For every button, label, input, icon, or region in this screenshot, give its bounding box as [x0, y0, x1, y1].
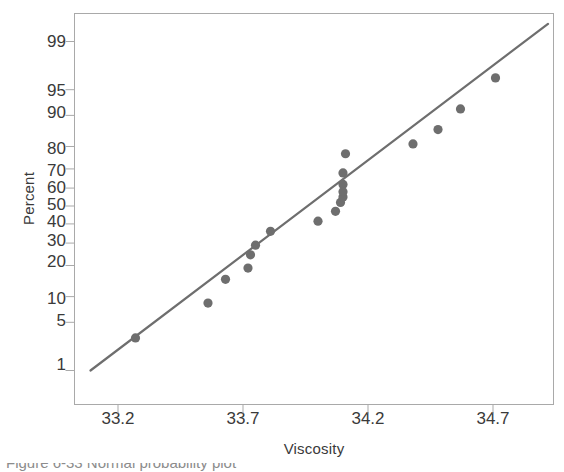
data-point	[338, 180, 347, 189]
y-axis-ticks	[66, 42, 75, 371]
plot-canvas	[0, 0, 564, 472]
data-point	[313, 217, 322, 226]
data-point	[491, 73, 500, 82]
normal-probability-plot-figure: Percent Viscosity 99 95 90 80 70 60 50 4…	[0, 0, 564, 472]
figure-caption-strip: Figure 6-33 Normal probability plot	[0, 463, 564, 472]
data-point-group	[131, 73, 500, 342]
data-point	[221, 275, 230, 284]
data-point	[251, 241, 260, 250]
normal-fit-line	[91, 24, 549, 371]
figure-caption: Figure 6-33 Normal probability plot	[6, 463, 236, 471]
data-point	[331, 207, 340, 216]
data-point	[203, 298, 212, 307]
data-point	[433, 125, 442, 134]
data-point	[266, 227, 275, 236]
x-axis-ticks	[118, 405, 493, 414]
data-point	[243, 263, 252, 272]
data-point	[456, 104, 465, 113]
data-point	[246, 250, 255, 259]
data-point	[341, 149, 350, 158]
data-point	[131, 333, 140, 342]
data-point	[408, 139, 417, 148]
data-point	[338, 168, 347, 177]
plot-frame	[75, 14, 554, 405]
